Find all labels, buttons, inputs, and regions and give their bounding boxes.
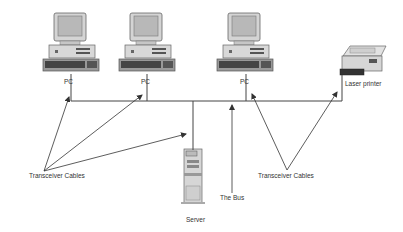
pc-1-label: PC xyxy=(64,79,73,86)
server-label: Server xyxy=(186,217,205,224)
server-icon xyxy=(181,149,205,204)
right-transceiver-arrows xyxy=(252,92,337,170)
pc-1-icon xyxy=(43,13,99,71)
pc-3-icon xyxy=(217,13,273,71)
pc-3-label: PC xyxy=(240,79,249,86)
laser-printer-label: Laser printer xyxy=(345,81,382,88)
right-transceiver-label: Transceiver Cables xyxy=(258,173,314,180)
bus-network-diagram: PC PC PC Laser printer Server Transceive… xyxy=(0,0,403,232)
laser-printer-icon xyxy=(340,46,386,75)
left-transceiver-label: Transceiver Cables xyxy=(29,173,85,180)
pc-2-label: PC xyxy=(141,79,150,86)
left-transceiver-arrows xyxy=(44,95,186,171)
bus-label: The Bus xyxy=(220,195,244,202)
pc-2-icon xyxy=(119,13,175,71)
bus-cable xyxy=(71,74,342,150)
